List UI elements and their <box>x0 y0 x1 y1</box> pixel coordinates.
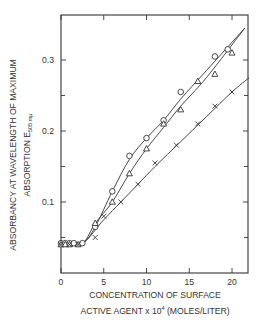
cross-curve <box>61 78 249 246</box>
cross-marker <box>230 90 235 95</box>
cross-marker <box>93 235 98 240</box>
circle-marker <box>225 47 231 53</box>
triangle-marker <box>126 170 132 175</box>
x-tick-label: 0 <box>59 277 64 287</box>
cross-marker <box>101 214 106 219</box>
triangle-marker <box>212 71 218 76</box>
cross-marker <box>118 200 123 205</box>
y-axis-label-line1: ABSORBANCY AT WAVELENGTH OF MAXIMUM <box>8 59 18 250</box>
circle-curve <box>61 28 245 244</box>
y-axis-ticks: 0.10.20.3 <box>42 55 248 238</box>
data-points <box>58 47 235 247</box>
y-tick-label: 0.1 <box>42 197 54 207</box>
triangle-curve <box>61 28 245 245</box>
triangle-marker <box>195 78 201 83</box>
fit-curves <box>61 28 249 245</box>
circle-marker <box>212 54 218 60</box>
circle-marker <box>110 189 116 195</box>
x-tick-label: 20 <box>227 277 237 287</box>
y-tick-label: 0.3 <box>42 55 54 65</box>
x-axis-label-line2: ACTIVE AGENT x 104 (MOLES/LITER) <box>80 305 229 316</box>
x-tick-label: 10 <box>142 277 152 287</box>
y-tick-label: 0.2 <box>42 126 54 136</box>
cross-marker <box>136 182 141 187</box>
y-axis-label-line2: ABSORPTION E505 mμ <box>22 114 33 197</box>
x-tick-label: 15 <box>184 277 194 287</box>
cross-marker <box>153 161 158 166</box>
x-tick-label: 5 <box>101 277 106 287</box>
circle-marker <box>178 89 184 95</box>
cross-marker <box>174 143 179 148</box>
x-axis-label-line1: CONCENTRATION OF SURFACE <box>89 290 221 300</box>
circle-marker <box>127 153 133 159</box>
circle-marker <box>144 135 150 141</box>
absorbancy-chart: 05101520 0.10.20.3 CONCENTRATION OF SURF… <box>0 0 259 323</box>
